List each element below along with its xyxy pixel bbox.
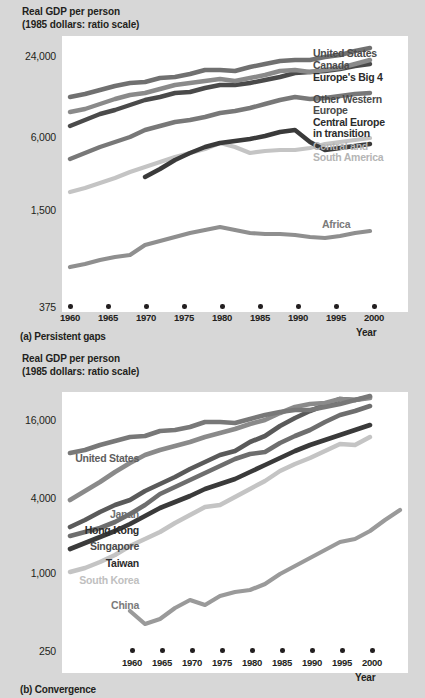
panel-a-xtick-1960: 1960 xyxy=(53,312,87,323)
panel-a-label-south-america: South America xyxy=(313,152,383,164)
panel-b-label-japan: Japan xyxy=(0,509,139,521)
panel-a-label-africa: Africa xyxy=(322,219,350,231)
panel-b-xtick-dot-1995 xyxy=(340,648,345,653)
panel-a-axis-title-line1: Real GDP per person xyxy=(22,6,139,19)
panel-b-xtick-dot-1985 xyxy=(280,648,285,653)
panel-b-xtick-1960: 1960 xyxy=(115,657,149,668)
panel-a-xtick-dot-1960 xyxy=(68,304,73,309)
panel-b-xtick-1970: 1970 xyxy=(175,657,209,668)
panel-b-xtick-1990: 1990 xyxy=(295,657,329,668)
panel-a-xtick-dot-1980 xyxy=(220,304,225,309)
panel-b-axis-title: Real GDP per person (1985 dollars: ratio… xyxy=(22,353,139,378)
panel-b-label-china: China xyxy=(0,600,139,612)
panel-b-xtick-dot-1975 xyxy=(220,648,225,653)
line-africa xyxy=(70,227,370,267)
panel-b-xaxis-label: Year xyxy=(355,672,375,683)
panel-a-xtick-dot-1970 xyxy=(144,304,149,309)
panel-b-xtick-2000: 2000 xyxy=(355,657,389,668)
panel-b-xtick-dot-1990 xyxy=(310,648,315,653)
panel-b-xtick-1995: 1995 xyxy=(325,657,359,668)
panel-b-xtick-1980: 1980 xyxy=(235,657,269,668)
panel-a-xtick-dot-2000 xyxy=(372,304,377,309)
panel-b-xtick-dot-1970 xyxy=(190,648,195,653)
panel-a-label-europe: Europe xyxy=(313,105,348,117)
panel-a-ytick-6000: 6,000 xyxy=(10,131,56,143)
panel-b-label-hong-kong: Hong Kong xyxy=(0,525,139,537)
panel-convergence: Real GDP per person (1985 dollars: ratio… xyxy=(0,348,425,698)
panel-b-axis-title-line2: (1985 dollars: ratio scale) xyxy=(22,366,139,379)
panel-b-label-south-korea: South Korea xyxy=(0,575,139,587)
panel-a-ytick-375: 375 xyxy=(10,301,56,313)
panel-a-xtick-1985: 1985 xyxy=(243,312,277,323)
panel-a-xtick-dot-1995 xyxy=(334,304,339,309)
panel-a-caption: (a) Persistent gaps xyxy=(20,331,106,342)
panel-a-xtick-1990: 1990 xyxy=(281,312,315,323)
panel-a-xtick-1965: 1965 xyxy=(91,312,125,323)
panel-a-xtick-1975: 1975 xyxy=(167,312,201,323)
panel-a-ytick-1500: 1,500 xyxy=(10,204,56,216)
panel-a-axis-title-line2: (1985 dollars: ratio scale) xyxy=(22,19,139,32)
panel-b-label-singapore: Singapore xyxy=(0,541,139,553)
panel-b-xtick-dot-2000 xyxy=(370,648,375,653)
panel-b-xtick-1985: 1985 xyxy=(265,657,299,668)
panel-a-xtick-dot-1990 xyxy=(296,304,301,309)
panel-a-xaxis-label: Year xyxy=(356,327,376,338)
panel-b-xtick-dot-1980 xyxy=(250,648,255,653)
panel-a-label-canada: Canada xyxy=(313,60,349,72)
panel-a-xtick-dot-1975 xyxy=(182,304,187,309)
panel-a-label-europes-big-4: Europe's Big 4 xyxy=(313,72,383,84)
panel-a-xtick-2000: 2000 xyxy=(357,312,391,323)
panel-b-axis-title-line1: Real GDP per person xyxy=(22,353,139,366)
panel-a-ytick-24000: 24,000 xyxy=(10,50,56,62)
panel-b-ytick-16000: 16,000 xyxy=(10,414,56,426)
panel-b-caption: (b) Convergence xyxy=(20,684,96,695)
panel-a-xtick-1970: 1970 xyxy=(129,312,163,323)
panel-a-xtick-dot-1985 xyxy=(258,304,263,309)
panel-a-xtick-1995: 1995 xyxy=(319,312,353,323)
panel-b-xtick-1975: 1975 xyxy=(205,657,239,668)
panel-b-xtick-dot-1960 xyxy=(130,648,135,653)
panel-b-xtick-1965: 1965 xyxy=(145,657,179,668)
panel-a-xtick-1980: 1980 xyxy=(205,312,239,323)
panel-b-ytick-250: 250 xyxy=(10,645,56,657)
panel-persistent-gaps: Real GDP per person (1985 dollars: ratio… xyxy=(0,0,425,348)
panel-b-label-taiwan: Taiwan xyxy=(0,558,139,570)
panel-a-label-in-transition: in transition xyxy=(313,128,370,140)
panel-b-ytick-4000: 4,000 xyxy=(10,492,56,504)
panel-b-label-united-states: United States xyxy=(0,453,139,465)
panel-a-xtick-dot-1965 xyxy=(106,304,111,309)
panel-a-label-united-states: United States xyxy=(313,48,377,60)
panel-b-xtick-dot-1965 xyxy=(160,648,165,653)
panel-a-axis-title: Real GDP per person (1985 dollars: ratio… xyxy=(22,6,139,31)
